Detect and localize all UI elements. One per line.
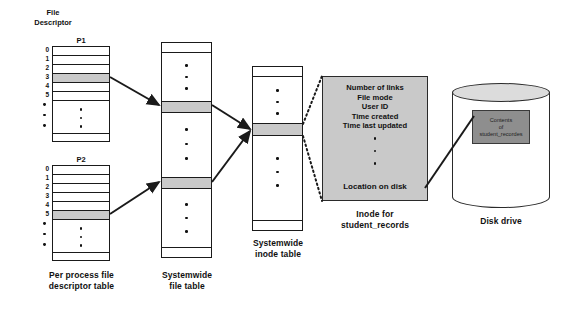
ft-row-top[interactable] xyxy=(162,43,211,53)
ft-row-bottom[interactable] xyxy=(162,248,211,259)
file-descriptor-label-line2: Descriptor xyxy=(18,18,88,28)
fd-index-p1-5: 5 xyxy=(40,92,49,99)
it-row-top[interactable] xyxy=(253,67,302,77)
expansion-line-bottom xyxy=(303,136,322,201)
fd-index-p2-3: 3 xyxy=(40,193,49,200)
process-table-p1-title: P1 xyxy=(52,36,110,45)
fd-row-0[interactable] xyxy=(53,47,109,56)
ft-row-highlighted-2[interactable] xyxy=(162,178,211,189)
per-process-file-descriptor-table-p1[interactable] xyxy=(52,46,110,142)
fd-index-p2-5: 5 xyxy=(40,211,49,218)
fd2-row-5-highlighted[interactable] xyxy=(53,211,109,220)
caption-inode-box-line1: Inode for xyxy=(321,209,429,220)
caption-inode-box-line2: student_records xyxy=(321,220,429,231)
inode-table-ellipsis-dots-1 xyxy=(253,89,302,115)
inode-field-user-id: User ID xyxy=(323,102,427,112)
inode-table-ellipsis-dots-2 xyxy=(253,157,302,187)
disk-contents-line3: student_recordes xyxy=(479,131,522,138)
disk-contents-line2: of xyxy=(499,124,504,131)
disk-contents-block[interactable]: Contents of student_recordes xyxy=(472,110,530,144)
fd-index-p1-1: 1 xyxy=(40,56,49,63)
inode-field-number-of-links: Number of links xyxy=(323,83,427,93)
it-row-bottom[interactable] xyxy=(253,221,302,232)
fd-row-4[interactable] xyxy=(53,83,109,92)
disk-contents-line1: Contents xyxy=(490,117,512,124)
fd2-row-3[interactable] xyxy=(53,193,109,202)
fd-table-p2-ellipsis-dots xyxy=(53,227,109,247)
fd-row-1[interactable] xyxy=(53,56,109,65)
fd-row-3-highlighted[interactable] xyxy=(53,74,109,83)
file-descriptor-label: File Descriptor xyxy=(18,8,88,28)
it-row-highlighted[interactable] xyxy=(253,124,302,136)
disk-cylinder-body xyxy=(452,92,550,197)
fd-index-p1-3: 3 xyxy=(40,74,49,81)
fd-index-p2-2: 2 xyxy=(40,184,49,191)
link-p2-to-filetable xyxy=(110,182,159,214)
inode-field-time-created: Time created xyxy=(323,112,427,122)
fd2-row-final[interactable] xyxy=(53,253,109,262)
diagram-canvas: File Descriptor P1 0 1 2 3 4 5 P2 xyxy=(0,0,567,310)
expansion-line-top xyxy=(303,76,322,124)
caption-systemwide-inode-table: Systemwide inode table xyxy=(236,238,320,260)
fd-index-p2-1: 1 xyxy=(40,175,49,182)
link-filetable-row1-to-inodetable xyxy=(212,105,250,129)
disk-drive-cylinder[interactable] xyxy=(452,83,550,208)
caption-per-process-line1: Per process file xyxy=(24,270,139,281)
fd-index-p1-2: 2 xyxy=(40,65,49,72)
inode-field-time-last-updated: Time last updated xyxy=(323,121,427,131)
fd2-row-1[interactable] xyxy=(53,175,109,184)
caption-systemwide-file-table: Systemwide file table xyxy=(146,270,228,292)
fd-index-p2-ellipsis-dots xyxy=(40,222,49,246)
per-process-file-descriptor-table-p2[interactable] xyxy=(52,165,110,261)
process-table-p2-title: P2 xyxy=(52,155,110,164)
caption-file-table-line2: file table xyxy=(146,281,228,292)
disk-cylinder-top-ellipse xyxy=(452,83,550,102)
inode-field-file-mode: File mode xyxy=(323,93,427,103)
fd-index-p1-4: 4 xyxy=(40,83,49,90)
file-table-ellipsis-dots-1 xyxy=(162,64,211,90)
inode-detail-panel[interactable]: Number of links File mode User ID Time c… xyxy=(322,76,428,201)
fd-index-p2-4: 4 xyxy=(40,202,49,209)
link-filetable-row2-to-inodetable xyxy=(212,131,250,182)
fd-row-final[interactable] xyxy=(53,134,109,143)
file-table-ellipsis-dots-3 xyxy=(162,203,211,233)
caption-per-process-line2: descriptor table xyxy=(24,281,139,292)
caption-file-table-line1: Systemwide xyxy=(146,270,228,281)
inode-field-location-on-disk: Location on disk xyxy=(323,182,427,192)
caption-inode-for-student-records: Inode for student_records xyxy=(321,209,429,231)
file-descriptor-label-line1: File xyxy=(18,8,88,18)
caption-disk-drive: Disk drive xyxy=(452,216,550,227)
fd-index-p2-0: 0 xyxy=(40,166,49,173)
fd2-row-0[interactable] xyxy=(53,166,109,175)
fd-index-p1-ellipsis-dots xyxy=(40,103,49,127)
fd2-row-2[interactable] xyxy=(53,184,109,193)
link-p1-to-filetable xyxy=(110,77,159,105)
caption-inode-table-line2: inode table xyxy=(236,249,320,260)
caption-per-process-file-descriptor-table: Per process file descriptor table xyxy=(24,270,139,292)
caption-inode-table-line1: Systemwide xyxy=(236,238,320,249)
inode-panel-ellipsis-dots xyxy=(323,137,427,165)
systemwide-file-table[interactable] xyxy=(161,42,212,258)
ft-row-highlighted-1[interactable] xyxy=(162,102,211,113)
fd-table-p1-ellipsis-dots xyxy=(53,108,109,128)
fd-index-p1-0: 0 xyxy=(40,47,49,54)
fd2-row-4[interactable] xyxy=(53,202,109,211)
fd-row-5[interactable] xyxy=(53,92,109,101)
file-table-ellipsis-dots-2 xyxy=(162,128,211,160)
fd-row-2[interactable] xyxy=(53,65,109,74)
systemwide-inode-table[interactable] xyxy=(252,66,303,231)
